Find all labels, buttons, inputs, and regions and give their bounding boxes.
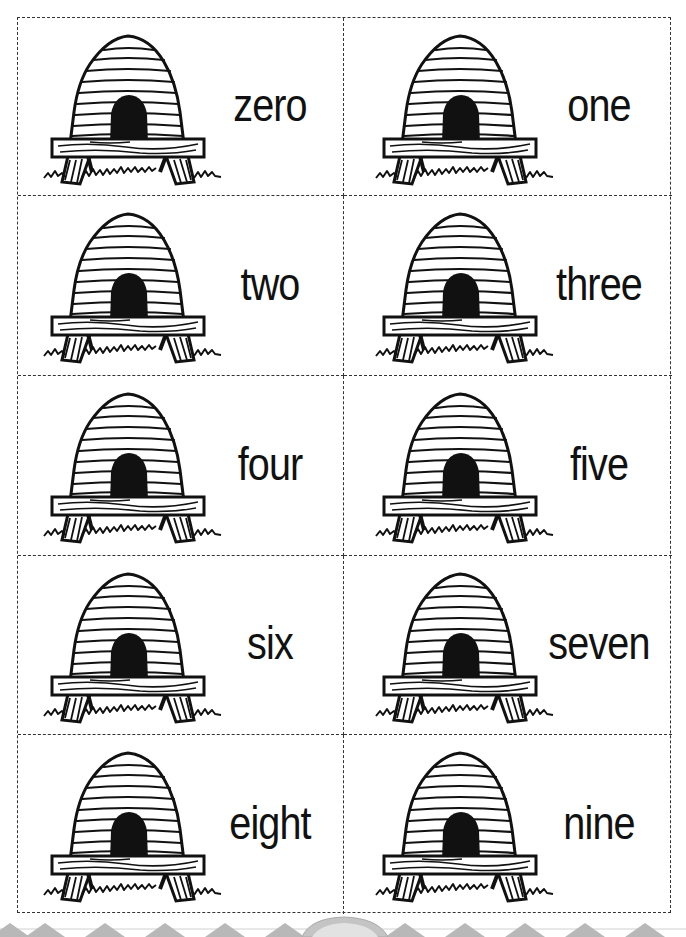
card-four: four [18,376,344,556]
card-word: two [210,256,330,310]
beehive-icon [362,390,558,546]
card-three: three [344,196,672,376]
beehive-icon [362,210,558,366]
footer-zigzag-decoration [0,915,686,937]
card-word: four [210,436,330,490]
card-one: one [344,18,672,196]
beehive-icon [30,210,226,366]
card-word: five [539,436,659,490]
number-word-card-sheet: zero one two three four five six seven e… [17,17,671,913]
card-five: five [344,376,672,556]
beehive-icon [30,390,226,546]
beehive-icon [30,32,226,188]
card-word: seven [539,616,659,670]
beehive-icon [362,32,558,188]
beehive-icon [362,570,558,726]
card-word: six [210,616,330,670]
card-word: zero [210,77,330,131]
card-nine: nine [344,735,672,914]
beehive-icon [30,749,226,905]
card-seven: seven [344,556,672,735]
card-word: three [539,256,659,310]
card-word: one [539,77,659,131]
card-six: six [18,556,344,735]
card-zero: zero [18,18,344,196]
card-word: eight [210,795,330,849]
beehive-icon [362,749,558,905]
card-two: two [18,196,344,376]
card-eight: eight [18,735,344,914]
beehive-icon [30,570,226,726]
card-word: nine [539,795,659,849]
